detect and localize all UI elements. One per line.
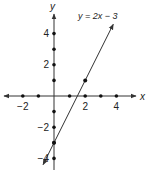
x-tick-dot (37, 94, 41, 98)
x-tick-dot (68, 94, 72, 98)
line-point (52, 141, 56, 145)
y-tick-label: 4 (43, 28, 49, 39)
coordinate-plane: x y y = 2x − 3 −22442−2−4 (0, 0, 146, 170)
x-tick-label: −2 (17, 101, 29, 112)
line-point (83, 78, 87, 82)
y-tick-dot (52, 63, 56, 67)
y-tick-dot (52, 47, 56, 51)
y-tick-dot (52, 32, 56, 36)
y-tick-dot (52, 157, 56, 161)
x-tick-dot (83, 94, 87, 98)
x-tick-dot (115, 94, 119, 98)
x-tick-label: 2 (82, 101, 88, 112)
y-tick-label: −2 (38, 122, 50, 133)
x-tick-dot (99, 94, 103, 98)
labels: x y y = 2x − 3 −22442−2−4 (17, 1, 146, 164)
y-axis-label: y (49, 1, 56, 12)
equation-label: y = 2x − 3 (77, 11, 118, 21)
y-tick-dot (52, 110, 56, 114)
y-tick-dot (52, 79, 56, 83)
x-tick-label: 4 (114, 101, 120, 112)
axes (4, 14, 136, 170)
y-tick-label: −4 (38, 153, 50, 164)
x-tick-dot (21, 94, 25, 98)
x-axis-label: x (139, 91, 146, 102)
y-tick-dot (52, 125, 56, 129)
y-tick-label: 2 (43, 59, 49, 70)
